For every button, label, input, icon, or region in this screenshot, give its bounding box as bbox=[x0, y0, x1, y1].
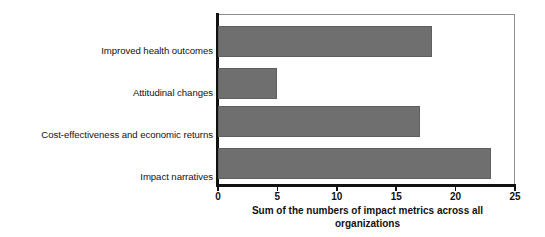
bar-improved-health-outcomes[interactable] bbox=[218, 26, 432, 57]
category-label: Cost-effectiveness and economic returns bbox=[0, 129, 213, 140]
category-label: Attitudinal changes bbox=[0, 87, 213, 98]
bar-impact-narratives[interactable] bbox=[218, 148, 491, 179]
category-label: Improved health outcomes bbox=[0, 45, 213, 56]
x-axis-tick-label: 15 bbox=[376, 191, 416, 202]
category-axis-labels: Improved health outcomes Attitudinal cha… bbox=[0, 14, 216, 185]
bar-cost-effectiveness-and-economic-returns[interactable] bbox=[218, 106, 420, 137]
bar-chart: Improved health outcomes Attitudinal cha… bbox=[0, 0, 545, 237]
bars-layer bbox=[218, 14, 515, 185]
x-axis-tick-label: 25 bbox=[495, 191, 535, 202]
x-axis-tick-label: 0 bbox=[198, 191, 238, 202]
x-axis-title-line-1: Sum of the numbers of impact metrics acr… bbox=[190, 205, 545, 218]
x-axis-tick-label: 20 bbox=[436, 191, 476, 202]
x-axis-title: Sum of the numbers of impact metrics acr… bbox=[190, 205, 545, 230]
bar-attitudinal-changes[interactable] bbox=[218, 68, 277, 99]
x-axis-title-line-2: organizations bbox=[190, 218, 545, 231]
x-axis-tick-label: 10 bbox=[317, 191, 357, 202]
category-label: Impact narratives bbox=[0, 171, 213, 182]
x-axis-tick-label: 5 bbox=[257, 191, 297, 202]
